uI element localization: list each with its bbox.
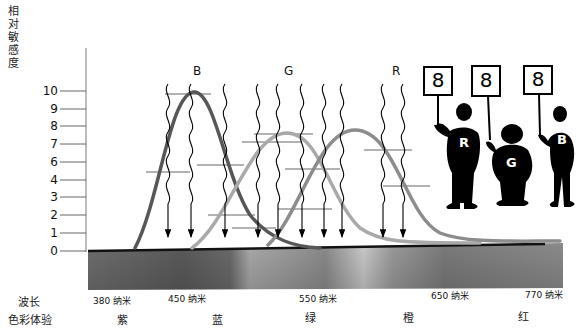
spectrum-bar <box>88 243 563 290</box>
sign-number-g: 8 <box>474 68 498 92</box>
figure-letter-g: G <box>506 155 517 170</box>
wavelength-label: 380 纳米 <box>93 294 131 307</box>
color-experience-label: 紫 <box>117 311 128 327</box>
wavelength-label: 770 纳米 <box>525 288 563 301</box>
color-experience-label: 绿 <box>305 309 316 325</box>
y-axis <box>60 48 86 252</box>
color-experience-label: 红 <box>518 308 529 324</box>
sign-number-r: 8 <box>426 68 450 92</box>
curve-label-g: G <box>284 64 293 78</box>
color-experience-label: 蓝 <box>212 311 223 327</box>
sign-number-b: 8 <box>526 67 550 91</box>
figure-letter-b: B <box>557 132 567 147</box>
color-experience-label: 橙 <box>403 309 414 325</box>
wavelength-label: 450 纳米 <box>168 292 206 305</box>
cone-sensitivity-diagram: 相 对 敏 感 度 10 9 8 7 6 4 3 2 1 0 <box>0 0 585 336</box>
wavelength-row-label: 波长 <box>18 293 40 309</box>
blue-cone-curve <box>135 92 320 248</box>
wavelength-label: 550 纳米 <box>299 292 337 305</box>
curve-label-r: R <box>392 64 400 78</box>
curve-label-b: B <box>193 64 201 78</box>
color-experience-row-label: 色彩体验 <box>8 311 52 327</box>
diagram-graphics <box>0 0 585 336</box>
figure-letter-r: R <box>459 135 469 150</box>
wavelength-label: 650 纳米 <box>431 289 469 302</box>
wave-markers <box>146 94 430 228</box>
light-rays <box>166 84 404 237</box>
